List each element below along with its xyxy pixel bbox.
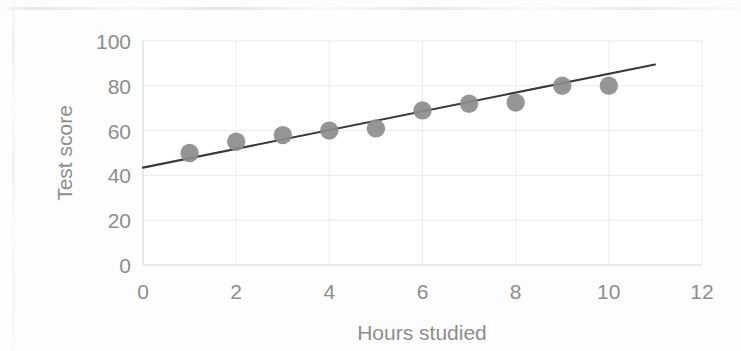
x-tick-label-12: 12: [690, 280, 713, 303]
x-axis-title: Hours studied: [357, 321, 487, 344]
data-point: [600, 77, 618, 95]
x-tick-label-4: 4: [323, 280, 335, 303]
x-tick-label-10: 10: [597, 280, 620, 303]
scatter-plot-chart: 100 80 60 40 20 0 0 2 4 6 8 10 12 Hours …: [0, 0, 741, 351]
x-tick-label-2: 2: [230, 280, 242, 303]
x-tick-label-6: 6: [417, 280, 429, 303]
y-tick-label-40: 40: [108, 164, 131, 187]
data-point: [274, 126, 292, 144]
y-axis-tick-labels: 100 80 60 40 20 0: [96, 30, 131, 277]
x-tick-label-8: 8: [510, 280, 522, 303]
data-point: [320, 121, 338, 139]
data-point: [180, 144, 198, 162]
chart-page: 100 80 60 40 20 0 0 2 4 6 8 10 12 Hours …: [0, 0, 741, 351]
y-tick-label-20: 20: [108, 209, 131, 232]
y-axis-title: Test score: [53, 105, 76, 201]
data-point: [227, 133, 245, 151]
x-tick-label-0: 0: [137, 280, 149, 303]
data-point: [413, 101, 431, 119]
data-point: [553, 77, 571, 95]
data-point: [460, 95, 478, 113]
y-tick-label-0: 0: [119, 254, 131, 277]
data-point: [507, 93, 525, 111]
data-point: [367, 119, 385, 137]
x-axis-tick-labels: 0 2 4 6 8 10 12: [137, 280, 714, 303]
y-tick-label-60: 60: [108, 120, 131, 143]
y-tick-label-80: 80: [108, 75, 131, 98]
y-tick-label-100: 100: [96, 30, 131, 53]
